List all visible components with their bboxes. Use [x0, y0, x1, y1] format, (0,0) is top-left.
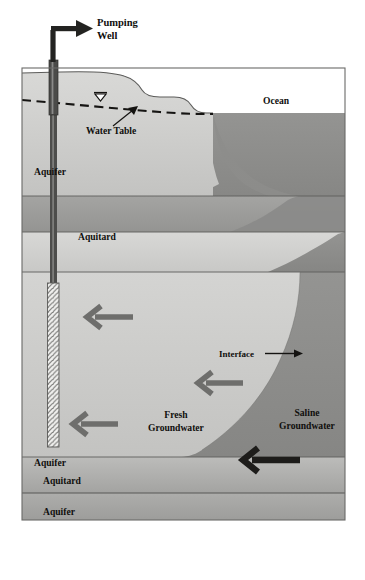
label-pumping-well-line2: Well [97, 30, 117, 41]
label-aquitard-lower: Aquitard [43, 475, 82, 486]
label-aquifer-upper: Aquifer [34, 166, 67, 177]
label-aquifer-main: Aquifer [34, 457, 67, 468]
label-water-table: Water Table [86, 125, 137, 136]
well-screen[interactable] [48, 283, 60, 447]
label-saline-groundwater-line2: Groundwater [279, 420, 336, 431]
label-saline-groundwater-line1: Saline [294, 407, 320, 418]
cross-section-canvas: Ocean Aquifer Aquitard Aquifer Aquitard … [0, 0, 365, 580]
label-pumping-well-line1: Pumping [97, 17, 139, 28]
label-aquifer-lower: Aquifer [43, 506, 76, 517]
hydrogeology-diagram: Ocean Aquifer Aquitard Aquifer Aquitard … [0, 0, 365, 580]
label-ocean: Ocean [263, 95, 290, 106]
label-aquitard-upper: Aquitard [78, 231, 117, 242]
label-interface: Interface [219, 349, 254, 359]
well-casing-highlight [52, 113, 54, 288]
well-casing-upper-highlight [52, 61, 54, 114]
label-fresh-groundwater-line2: Groundwater [148, 422, 205, 433]
section-body: Ocean Aquifer Aquitard Aquifer Aquitard … [22, 72, 345, 520]
label-fresh-groundwater-line1: Fresh [164, 409, 188, 420]
